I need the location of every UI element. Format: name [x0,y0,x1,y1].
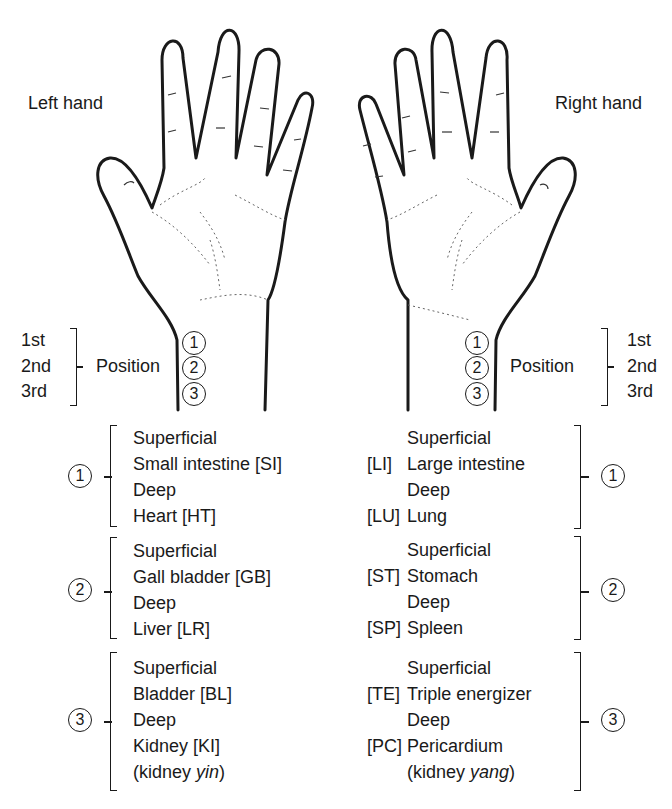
right-group-2-row: Superficial [367,537,491,563]
row-text: Deep [407,710,450,730]
right-group-3-tick [581,721,589,723]
hands-illustration [0,0,672,809]
row-abbr: [PC] [367,733,407,759]
row-text: Stomach [407,566,478,586]
row-text: Pericardium [407,736,503,756]
row-text: Lung [407,506,447,526]
left-group-3-circle: 3 [68,708,92,732]
left-group-1-line: Small intestine [SI] [133,451,282,477]
row-abbr: [LI] [367,451,407,477]
right-group-1-row: Deep [367,477,525,503]
row-text: Triple energizer [407,684,531,704]
right-wrist-circle-2: 2 [465,356,489,380]
left-wrist-circle-2: 2 [182,356,206,380]
left-group-3-line: Kidney [KI] [133,733,232,759]
left-position-label: Position [96,356,160,376]
row-abbr: [TE] [367,681,407,707]
left-order-bracket [70,328,77,406]
note-suffix: ) [219,762,225,782]
right-group-2-row: [ST]Stomach [367,563,491,589]
left-group-2-line: Superficial [133,538,271,564]
left-order-bracket-tick [77,366,83,368]
right-group-1-circle: 1 [601,464,625,488]
row-abbr: [LU] [367,503,407,529]
right-hand-outline [359,30,575,410]
left-order-3rd: 3rd [21,381,47,401]
note-suffix: ) [509,762,515,782]
left-group-1-circle: 1 [68,464,92,488]
right-group-2: Superficial [ST]Stomach Deep [SP]Spleen [367,537,491,641]
right-order-2nd: 2nd [627,356,657,376]
row-text: Deep [407,480,450,500]
right-group-3-bracket [574,652,581,791]
left-hand-outline [98,30,313,410]
left-group-2-line: Deep [133,590,271,616]
left-group-3-note: (kidney yin) [133,759,232,785]
left-order-1st: 1st [21,330,45,350]
left-group-1: Superficial Small intestine [SI] Deep He… [133,425,282,529]
note-prefix: (kidney [133,762,196,782]
right-group-2-circle: 2 [601,578,625,602]
left-group-1-bracket [110,425,117,527]
right-order-bracket-tick [608,366,614,368]
left-order-2nd: 2nd [21,356,51,376]
note-prefix: (kidney [407,762,470,782]
right-group-3-row: [TE]Triple energizer [367,681,531,707]
note-italic: yin [196,762,219,782]
right-group-3-circle: 3 [601,708,625,732]
left-group-3-line: Deep [133,707,232,733]
left-group-3: Superficial Bladder [BL] Deep Kidney [KI… [133,655,232,785]
row-text: Superficial [407,428,491,448]
left-group-2: Superficial Gall bladder [GB] Deep Liver… [133,538,271,642]
right-group-3-row: Deep [367,707,531,733]
row-abbr: [SP] [367,615,407,641]
left-wrist-circle-1: 1 [182,331,206,355]
row-text: Superficial [407,540,491,560]
left-group-2-line: Liver [LR] [133,616,271,642]
right-group-2-tick [581,591,589,593]
right-group-1-row: Superficial [367,425,525,451]
right-wrist-circle-3: 3 [465,382,489,406]
row-abbr: [ST] [367,563,407,589]
row-text: Superficial [407,658,491,678]
right-group-1-bracket [574,425,581,529]
right-group-1: Superficial [LI]Large intestine Deep [LU… [367,425,525,529]
right-hand-label: Right hand [555,93,642,114]
left-group-1-line: Superficial [133,425,282,451]
right-wrist-circle-1: 1 [465,331,489,355]
row-text: Deep [407,592,450,612]
right-position-label: Position [510,356,574,376]
right-order-3rd: 3rd [627,381,653,401]
row-text: Large intestine [407,454,525,474]
left-wrist-circle-3: 3 [182,382,206,406]
right-group-3: Superficial [TE]Triple energizer Deep [P… [367,655,531,785]
right-group-2-row: Deep [367,589,491,615]
row-text: Spleen [407,618,463,638]
right-group-3-row: [PC]Pericardium [367,733,531,759]
right-group-3-note: (kidney yang) [367,759,531,785]
right-order-1st: 1st [627,330,651,350]
left-group-2-line: Gall bladder [GB] [133,564,271,590]
right-order-bracket [601,328,608,406]
left-group-3-line: Bladder [BL] [133,681,232,707]
note-italic: yang [470,762,509,782]
left-hand-label: Left hand [28,93,103,114]
right-group-3-row: Superficial [367,655,531,681]
right-group-1-row: [LI]Large intestine [367,451,525,477]
left-group-3-line: Superficial [133,655,232,681]
left-group-3-bracket [110,652,117,791]
right-group-2-row: [SP]Spleen [367,615,491,641]
left-group-2-bracket [110,537,117,639]
right-group-2-bracket [574,536,581,640]
right-group-1-row: [LU]Lung [367,503,525,529]
right-group-1-tick [581,476,589,478]
left-group-2-circle: 2 [68,578,92,602]
left-group-1-line: Heart [HT] [133,503,282,529]
left-group-1-line: Deep [133,477,282,503]
